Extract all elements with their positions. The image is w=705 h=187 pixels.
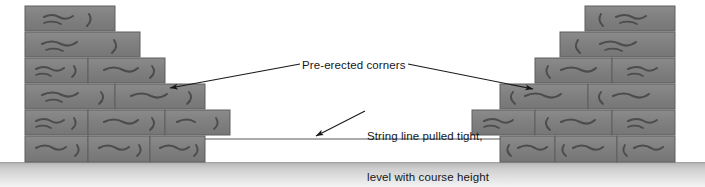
brick-course-6-left xyxy=(25,136,205,162)
left-pre-erected-corner xyxy=(25,6,230,162)
label-pre-erected-corners: Pre-erected corners xyxy=(302,59,406,73)
brick-course-2-right xyxy=(560,32,675,57)
brick-course-2-left xyxy=(25,32,140,57)
brick-course-3-right xyxy=(535,58,675,83)
ground-line xyxy=(0,162,705,187)
masonry-diagram-svg xyxy=(0,0,705,187)
label-string-line: String line pulled tight, level with cou… xyxy=(367,103,489,187)
leader-line-right-corner xyxy=(408,64,533,89)
brick-course-3-left xyxy=(25,58,165,83)
leader-line-left-corner xyxy=(170,64,300,88)
label-string-line-2: level with course height xyxy=(367,171,489,185)
brick-course-5-right xyxy=(472,110,675,135)
brick-course-4-left xyxy=(25,84,205,109)
brick-course-5-left xyxy=(25,110,230,135)
right-pre-erected-corner xyxy=(472,6,675,162)
label-string-line-1: String line pulled tight, xyxy=(367,130,489,144)
leader-line-string xyxy=(316,111,365,136)
brick-course-1-left xyxy=(25,6,115,31)
brick-course-1-right xyxy=(585,6,675,31)
diagram-canvas: Pre-erected corners String line pulled t… xyxy=(0,0,705,187)
brick-course-6-right xyxy=(500,136,675,162)
